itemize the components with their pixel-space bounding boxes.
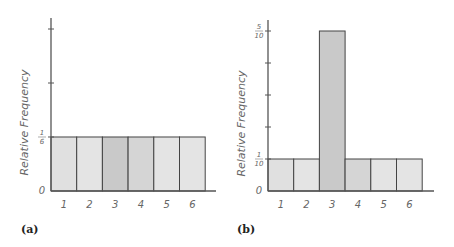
x-tick-label: 4 <box>355 199 361 210</box>
x-tick-label: 6 <box>189 199 195 210</box>
bar-1 <box>268 159 294 191</box>
bar-3 <box>319 31 345 191</box>
chart-b: 1234560110510Relative Frequency (b) <box>227 0 454 247</box>
x-tick-label: 1 <box>61 199 67 210</box>
y-tick-denominator: 10 <box>255 160 264 168</box>
x-tick-label: 4 <box>138 199 144 210</box>
panel-label-b: (b) <box>237 223 255 236</box>
y-tick-numerator: 1 <box>40 129 44 137</box>
bar-4 <box>128 137 154 191</box>
bar-6 <box>397 159 423 191</box>
y-axis-label: Relative Frequency <box>18 69 31 176</box>
y-tick-denominator: 6 <box>40 138 45 146</box>
chart-b-plot: 1234560110510Relative Frequency <box>227 0 454 247</box>
y-axis-label: Relative Frequency <box>235 70 248 177</box>
bar-5 <box>154 137 180 191</box>
x-tick-label: 3 <box>112 199 118 210</box>
x-tick-label: 5 <box>163 199 169 210</box>
x-tick-label: 6 <box>406 199 412 210</box>
panel-label-a: (a) <box>21 223 39 236</box>
x-tick-label: 2 <box>86 199 92 210</box>
y-tick-numerator: 5 <box>257 23 262 31</box>
x-tick-label: 1 <box>278 199 284 210</box>
bar-5 <box>371 159 397 191</box>
chart-a: 123456016Relative Frequency (a) <box>0 0 227 247</box>
y-tick-label: 0 <box>256 185 262 196</box>
y-tick-label: 0 <box>39 185 45 196</box>
y-tick-numerator: 1 <box>257 151 261 159</box>
bar-6 <box>180 137 206 191</box>
y-tick-denominator: 10 <box>255 32 264 40</box>
chart-a-plot: 123456016Relative Frequency <box>0 0 227 247</box>
bar-3 <box>102 137 128 191</box>
x-tick-label: 3 <box>329 199 335 210</box>
bar-2 <box>77 137 103 191</box>
x-tick-label: 5 <box>380 199 386 210</box>
x-tick-label: 2 <box>303 199 309 210</box>
bar-4 <box>345 159 371 191</box>
bar-1 <box>51 137 77 191</box>
bar-2 <box>294 159 320 191</box>
